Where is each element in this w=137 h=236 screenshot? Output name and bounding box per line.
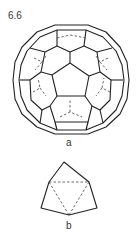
panel-label-b: b — [66, 221, 72, 231]
vertex-figure-diagram — [0, 0, 137, 236]
